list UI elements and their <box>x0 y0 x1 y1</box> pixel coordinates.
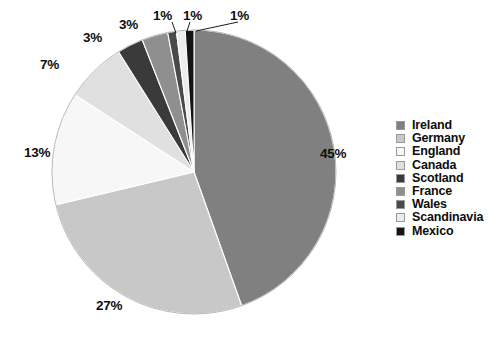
chart-legend: IrelandGermanyEnglandCanadaScotlandFranc… <box>396 119 496 238</box>
legend-swatch-germany <box>396 134 405 143</box>
pie-chart-figure: 45% 27% 13% 7% 3% 3% 1% 1% 1% IrelandGer… <box>0 0 501 346</box>
slice-label-france: 3% <box>119 17 138 32</box>
legend-swatch-canada <box>396 161 405 170</box>
slice-label-mexico: 1% <box>230 8 249 23</box>
pie-slices <box>52 30 336 314</box>
legend-item-scotland[interactable]: Scotland <box>396 172 496 185</box>
legend-item-scandinavia[interactable]: Scandinavia <box>396 211 496 224</box>
slice-label-germany: 27% <box>96 298 122 313</box>
legend-label: Canada <box>412 159 456 172</box>
legend-swatch-ireland <box>396 121 405 130</box>
legend-swatch-england <box>396 147 405 156</box>
slice-label-ireland: 45% <box>320 146 346 161</box>
legend-label: England <box>412 145 460 158</box>
legend-swatch-wales <box>396 200 405 209</box>
legend-label: Mexico <box>412 225 453 238</box>
legend-item-england[interactable]: England <box>396 145 496 158</box>
slice-label-england: 13% <box>24 145 50 160</box>
slice-label-scotland: 3% <box>83 30 102 45</box>
legend-item-canada[interactable]: Canada <box>396 159 496 172</box>
legend-label: Scotland <box>412 172 464 185</box>
legend-swatch-scotland <box>396 174 405 183</box>
slice-label-wales: 1% <box>153 8 172 23</box>
leader-line-mexico <box>196 22 238 31</box>
legend-label: Scandinavia <box>412 211 483 224</box>
legend-swatch-france <box>396 187 405 196</box>
slice-label-scandinavia: 1% <box>183 8 202 23</box>
legend-swatch-scandinavia <box>396 213 405 222</box>
legend-item-mexico[interactable]: Mexico <box>396 225 496 238</box>
legend-swatch-mexico <box>396 227 405 236</box>
slice-label-canada: 7% <box>40 57 59 72</box>
